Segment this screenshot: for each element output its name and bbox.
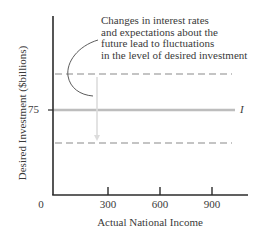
- callout-curve: [68, 40, 98, 96]
- annotation-text: Changes in interest rates and expectatio…: [101, 15, 247, 61]
- x-axis-label: Actual National Income: [90, 216, 210, 228]
- x-tick-label-0: 0: [26, 198, 56, 210]
- y-tick-label-75: 75: [28, 103, 39, 115]
- annotation-line-4: in the level of desired investment: [101, 50, 247, 62]
- x-tick-label-300: 300: [93, 198, 123, 210]
- annotation-line-1: Changes in interest rates: [101, 15, 247, 27]
- y-axis-label: Desired Investment ($billions): [16, 43, 28, 183]
- investment-chart: Changes in interest rates and expectatio…: [0, 0, 260, 238]
- annotation-line-3: future lead to fluctuations: [101, 38, 247, 50]
- x-tick-label-900: 900: [197, 198, 227, 210]
- series-label-I: I: [240, 103, 244, 115]
- x-tick-label-600: 600: [145, 198, 175, 210]
